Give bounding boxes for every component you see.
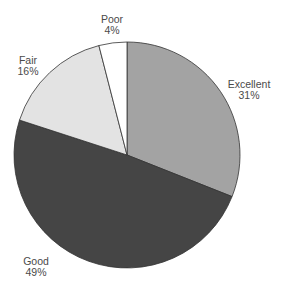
- slice-percent-fair: 16%: [17, 65, 38, 77]
- pie-chart: Excellent31%Good49%Fair16%Poor4%: [0, 0, 282, 293]
- slice-percent-excellent: 31%: [238, 89, 259, 101]
- slice-percent-poor: 4%: [104, 24, 119, 36]
- pie-slices: [14, 42, 240, 268]
- slice-percent-good: 49%: [25, 266, 46, 278]
